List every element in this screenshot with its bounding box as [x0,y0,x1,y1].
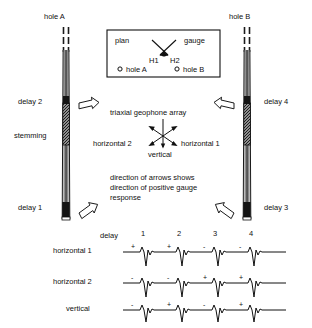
borehole-hole-a [62,27,70,220]
inset-plan-label: plan [115,36,129,45]
hole-a-label: hole A [44,12,65,21]
hole-a-delay1-charge [62,202,69,217]
inset-hole-b-marker [175,67,179,71]
gauge-arrow-delay4 [214,97,234,109]
trace-label-vertical: vertical [66,304,90,313]
polarity-h1-d4: - [239,242,241,251]
delay-2-label: delay 2 [18,97,42,106]
hole-a-stemming-zone [63,103,70,145]
inset-h2-label: H2 [170,56,180,65]
polarity-v-d1: - [131,300,133,309]
geophone-axes-star [148,119,177,149]
hole-b-label: hole B [229,12,250,21]
hole-b-delay4-charge [244,96,250,104]
polarity-v-d3: - [203,300,205,309]
delay-1-label: delay 1 [18,203,42,212]
inset-hole-a-marker [118,67,122,71]
hole-b-stemming-zone [244,103,251,145]
array-horizontal-1-label: horizontal 1 [181,139,220,148]
caption-line-2: direction of positive gauge [110,183,197,192]
array-horizontal-2-label: horizontal 2 [93,139,132,148]
stemming-label: stemming [14,131,47,140]
gauge-arrow-delay1 [79,203,98,219]
trace-delay-header: delay [100,231,118,240]
inset-h1-label: H1 [149,56,159,65]
hole-b-collar [245,27,250,52]
polarity-h2-d4: + [239,273,243,282]
trace-layer [123,247,286,322]
gauge-arrow-delay2 [79,97,99,109]
borehole-layer [0,0,312,328]
polarity-h1-d1: + [131,242,135,251]
caption-line-1: direction of arrows shows [110,173,195,182]
trace-label-horizontal-1: horizontal 1 [53,246,92,255]
array-vertical-label: vertical [148,150,172,159]
array-title: triaxial geophone array [110,108,186,117]
delay-tick-2: 2 [177,229,181,238]
polarity-v-d2: + [167,300,171,309]
delay-4-label: delay 4 [264,97,288,106]
polarity-h1-d3: - [203,242,205,251]
caption-line-3: response [110,193,141,202]
trace-label-horizontal-2: horizontal 2 [53,277,92,286]
polarity-h2-d1: - [131,273,133,282]
hole-a-collar [64,27,69,52]
polarity-h2-d3: + [203,273,207,282]
delay-tick-1: 1 [141,229,145,238]
polarity-h2-d2: - [167,273,169,282]
inset-hole-b-label: hole B [183,65,204,74]
gauge-arrow-delay3 [215,203,234,219]
inset-hole-a-label: hole A [126,65,147,74]
hole-b-delay3-charge [243,202,250,217]
inset-gauge-label: gauge [184,36,205,45]
polarity-h1-d2: + [167,242,171,251]
delay-tick-4: 4 [249,229,253,238]
delay-tick-3: 3 [213,229,217,238]
delay-3-label: delay 3 [264,203,288,212]
diagram-canvas: hole A hole B delay 2 stemming delay 1 d… [0,0,312,328]
polarity-v-d4: + [239,300,243,309]
borehole-hole-b [243,27,251,220]
hole-a-delay2-charge [63,96,69,104]
